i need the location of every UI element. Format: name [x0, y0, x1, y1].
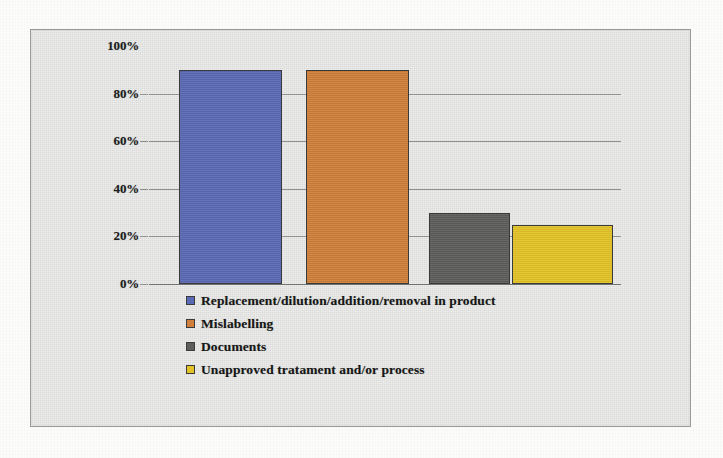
y-axis-tick: [140, 141, 148, 142]
legend-swatch-replacement: [186, 296, 195, 305]
legend-label-mislabelling: Mislabelling: [201, 316, 273, 332]
y-axis-tick: [140, 189, 148, 190]
legend-label-replacement: Replacement/dilution/addition/removal in…: [201, 293, 496, 309]
legend-swatch-mislabelling: [186, 319, 195, 328]
y-axis-label: 0%: [120, 276, 139, 292]
y-axis-tick: [140, 284, 148, 285]
y-axis-tick: [140, 94, 148, 95]
legend-label-unapproved: Unapproved tratament and/or process: [201, 362, 425, 378]
bar-series: [149, 46, 621, 284]
legend-swatch-documents: [186, 342, 195, 351]
bar-texture: [430, 214, 509, 283]
y-axis-label: 80%: [114, 86, 139, 102]
y-axis-label: 100%: [107, 38, 139, 54]
bar[interactable]: [512, 225, 613, 285]
y-axis-label: 60%: [114, 133, 139, 149]
legend-item[interactable]: Mislabelling: [186, 312, 656, 335]
legend-item[interactable]: Unapproved tratament and/or process: [186, 358, 656, 381]
legend-item[interactable]: Replacement/dilution/addition/removal in…: [186, 289, 656, 312]
bar-texture: [513, 226, 612, 284]
scanned-page: 100%80%60%40%20%0% Replacement/dilution/…: [0, 0, 723, 458]
y-axis-label: 20%: [114, 228, 139, 244]
axis-baseline: [149, 284, 621, 285]
chart-frame: 100%80%60%40%20%0% Replacement/dilution/…: [30, 29, 691, 427]
chart-legend: Replacement/dilution/addition/removal in…: [186, 289, 656, 381]
bar[interactable]: [306, 70, 409, 284]
bar[interactable]: [179, 70, 282, 284]
plot-area: 100%80%60%40%20%0%: [149, 46, 621, 284]
legend-label-documents: Documents: [201, 339, 266, 355]
legend-swatch-unapproved: [186, 365, 195, 374]
bar[interactable]: [429, 213, 510, 284]
bar-texture: [180, 71, 281, 283]
legend-item[interactable]: Documents: [186, 335, 656, 358]
y-axis-tick: [140, 236, 148, 237]
bar-texture: [307, 71, 408, 283]
y-axis-label: 40%: [114, 181, 139, 197]
